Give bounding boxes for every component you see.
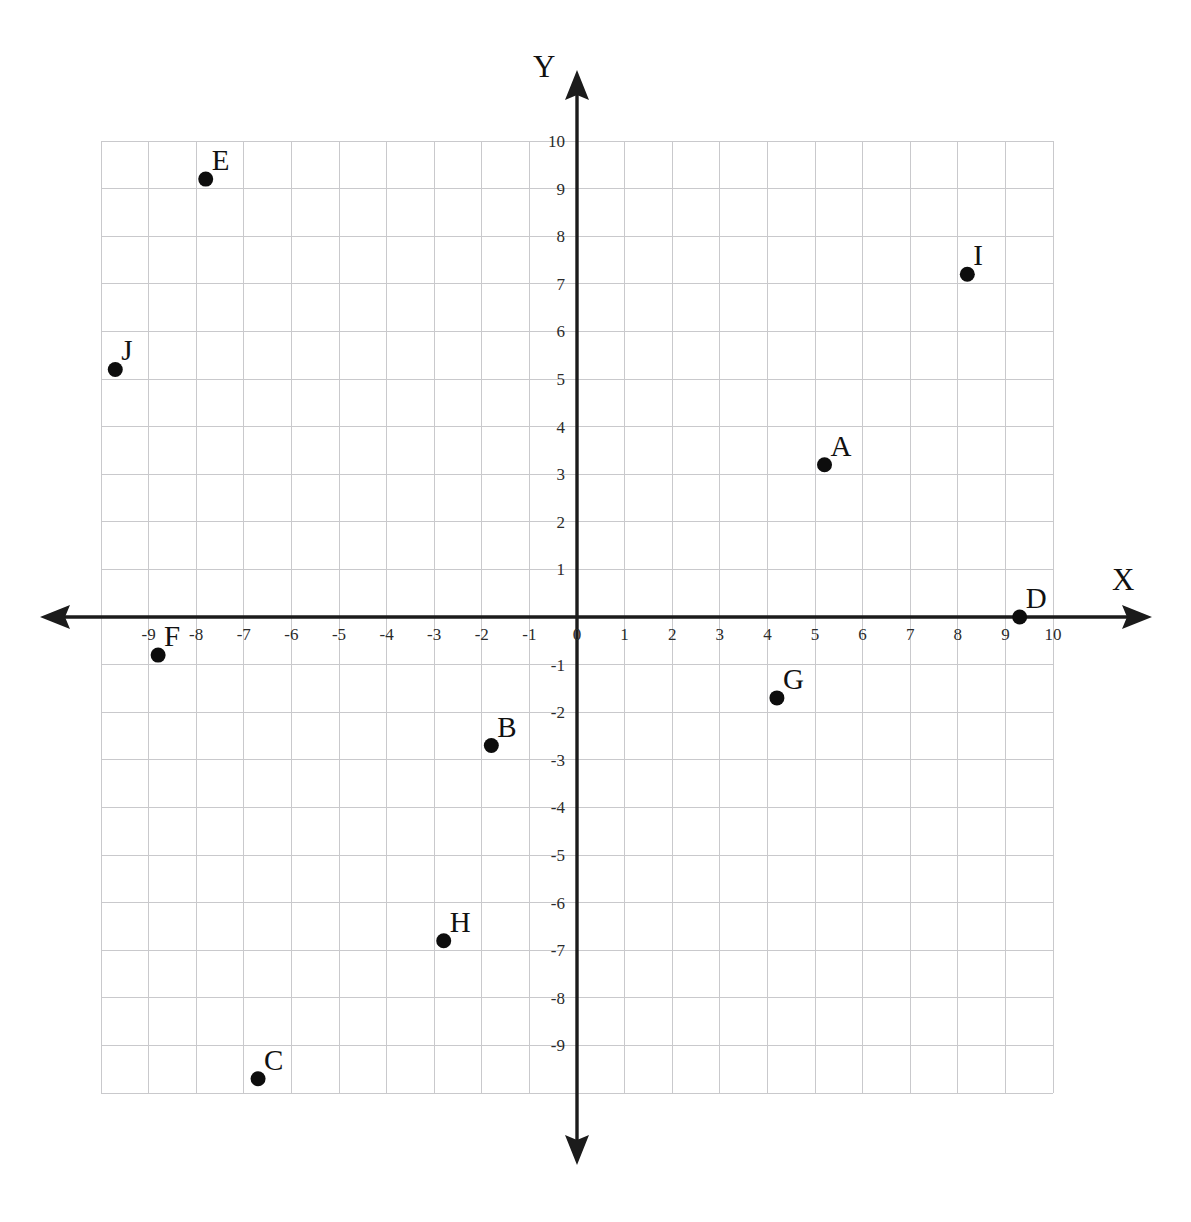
x-tick-label: 6 — [843, 626, 883, 643]
x-tick-label: -2 — [462, 626, 502, 643]
y-tick-label: 1 — [525, 561, 565, 578]
point-label-f: F — [164, 622, 180, 651]
y-axis-label: Y — [533, 51, 555, 82]
point-label-j: J — [121, 336, 132, 365]
y-tick-label: 5 — [525, 371, 565, 388]
x-tick-label: 3 — [700, 626, 740, 643]
x-tick-label: 2 — [652, 626, 692, 643]
axes — [40, 70, 1152, 1165]
point-label-h: H — [450, 908, 471, 937]
y-tick-label: -8 — [525, 990, 565, 1007]
y-tick-label: 8 — [525, 228, 565, 245]
y-tick-label: 9 — [525, 181, 565, 198]
x-tick-label: 5 — [795, 626, 835, 643]
x-tick-label: 7 — [890, 626, 930, 643]
y-tick-label: -4 — [525, 799, 565, 816]
x-tick-label: 4 — [747, 626, 787, 643]
y-tick-label: -6 — [525, 895, 565, 912]
x-tick-label: -3 — [414, 626, 454, 643]
x-tick-label: -1 — [509, 626, 549, 643]
y-tick-label: 7 — [525, 276, 565, 293]
x-tick-label: 10 — [1033, 626, 1073, 643]
plot-canvas — [0, 0, 1191, 1222]
x-tick-label: -6 — [271, 626, 311, 643]
point-label-a: A — [831, 432, 852, 461]
y-tick-label: 10 — [525, 133, 565, 150]
y-tick-label: -9 — [525, 1037, 565, 1054]
x-tick-label: -9 — [129, 626, 169, 643]
y-tick-label: -3 — [525, 752, 565, 769]
x-tick-label: 1 — [605, 626, 645, 643]
y-tick-label: -1 — [525, 657, 565, 674]
y-tick-label: -5 — [525, 847, 565, 864]
point-label-b: B — [497, 713, 516, 742]
x-tick-label: 0 — [557, 626, 597, 643]
y-tick-label: 3 — [525, 466, 565, 483]
y-tick-label: 2 — [525, 514, 565, 531]
point-label-c: C — [264, 1046, 283, 1075]
x-axis-label: X — [1112, 564, 1134, 595]
x-tick-label: 8 — [938, 626, 978, 643]
point-label-e: E — [212, 146, 230, 175]
y-tick-label: -7 — [525, 942, 565, 959]
x-tick-label: -4 — [367, 626, 407, 643]
y-tick-label: 4 — [525, 419, 565, 436]
point-label-d: D — [1026, 584, 1047, 613]
x-tick-label: -7 — [224, 626, 264, 643]
y-tick-label: 6 — [525, 323, 565, 340]
point-label-g: G — [783, 665, 804, 694]
x-tick-label: 9 — [985, 626, 1025, 643]
coordinate-plane-plot: -9-8-7-6-5-4-3-2-10123456789101098765432… — [0, 0, 1191, 1222]
x-tick-label: -8 — [176, 626, 216, 643]
point-label-i: I — [973, 241, 983, 270]
x-tick-label: -5 — [319, 626, 359, 643]
y-tick-label: -2 — [525, 704, 565, 721]
